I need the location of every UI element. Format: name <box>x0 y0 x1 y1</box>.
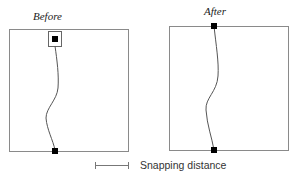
before-title: Before <box>33 10 62 22</box>
before-frame <box>10 30 129 152</box>
snapping-distance-legend: Snapping distance <box>95 159 227 171</box>
after-frame <box>170 27 289 151</box>
after-bottom-node-icon <box>211 147 217 153</box>
before-curve <box>46 46 58 150</box>
after-panel: After <box>170 5 289 153</box>
before-top-node-icon <box>52 36 58 42</box>
before-bottom-node-icon <box>52 148 58 154</box>
snapping-diagram: Before After Snapping distance <box>0 0 299 178</box>
snapping-distance-label: Snapping distance <box>140 159 227 171</box>
after-top-node-icon <box>211 23 217 29</box>
before-panel: Before <box>10 10 129 154</box>
after-title: After <box>203 5 227 17</box>
after-curve <box>206 26 218 150</box>
